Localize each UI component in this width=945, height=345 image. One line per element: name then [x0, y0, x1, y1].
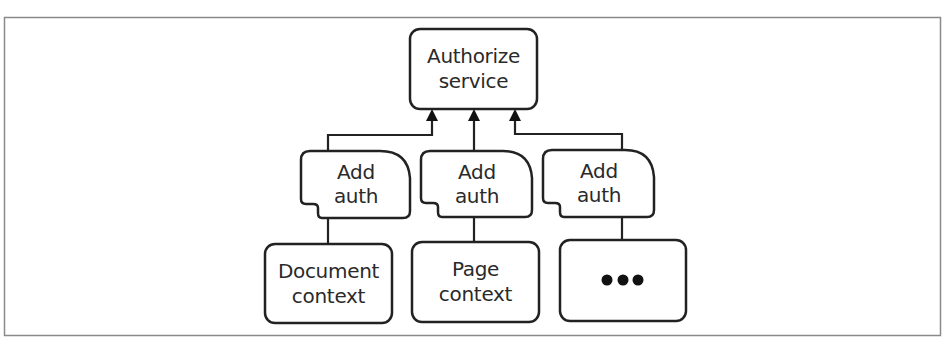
authorize-service-node[interactable]: Authorize service	[410, 29, 537, 109]
document-context-line-1: Document	[278, 259, 380, 283]
document-context-node[interactable]: Document context	[265, 244, 392, 323]
page-context-node[interactable]: Page context	[412, 242, 539, 322]
add-auth-1-line-2: auth	[334, 184, 378, 208]
connector-add-auth-2-to-authorize	[468, 109, 480, 150]
page-context-line-1: Page	[452, 257, 499, 281]
page-context-line-2: context	[439, 282, 513, 306]
arrow-head-icon	[426, 109, 438, 121]
ellipsis-icon	[602, 275, 644, 286]
arrow-head-icon	[509, 109, 521, 121]
add-auth-3-line-2: auth	[577, 183, 621, 207]
authorize-service-line-2: service	[439, 69, 509, 93]
add-auth-node-2[interactable]: Add auth	[421, 151, 532, 217]
authorize-service-line-1: Authorize	[427, 44, 520, 68]
add-auth-3-line-1: Add	[580, 159, 618, 183]
document-context-line-2: context	[292, 284, 366, 308]
connector-add-auth-3-to-authorize	[509, 109, 622, 150]
add-auth-node-3[interactable]: Add auth	[543, 150, 654, 217]
more-contexts-node[interactable]	[560, 240, 686, 321]
arrow-head-icon	[468, 109, 480, 121]
add-auth-node-1[interactable]: Add auth	[301, 151, 410, 218]
authorization-diagram: Authorize service Add auth Add auth Add …	[0, 0, 945, 345]
add-auth-2-line-2: auth	[455, 184, 499, 208]
add-auth-2-line-1: Add	[458, 160, 496, 184]
connector-add-auth-1-to-authorize	[328, 109, 438, 150]
add-auth-1-line-1: Add	[337, 160, 375, 184]
